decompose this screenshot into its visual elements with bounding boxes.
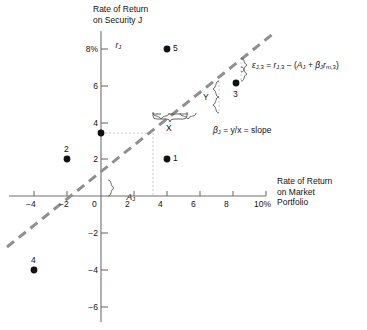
x-tick-marks xyxy=(34,191,266,196)
point-1 xyxy=(164,156,171,163)
regression-line xyxy=(7,33,274,247)
brace-residual xyxy=(241,58,247,81)
resid-rm-sub: m,3 xyxy=(326,64,336,70)
resid-eq-sign: = xyxy=(264,60,274,70)
point-label-5: 5 xyxy=(173,43,178,53)
y-axis-title: Rate of Return on Security J xyxy=(93,4,148,25)
x-tick-label-6: 6 xyxy=(191,199,209,209)
y-tick-label-minus6: −6 xyxy=(74,302,98,312)
y-tick-label-8: 8% xyxy=(78,44,98,54)
resid-plus: + xyxy=(306,60,316,70)
x-tick-label-4: 4 xyxy=(158,199,176,209)
x-tick-label-0: 0 xyxy=(92,199,110,209)
brace-label-alpha: AJ xyxy=(117,182,135,214)
point-label-1: 1 xyxy=(173,153,178,163)
axes xyxy=(9,31,266,322)
x-axis-title-line1: Rate of Return xyxy=(277,176,332,187)
y-tick-label-minus2: −2 xyxy=(74,228,98,238)
x-tick-label-10: 10% xyxy=(254,199,278,209)
data-points xyxy=(31,46,240,274)
y-tick-label-4: 4 xyxy=(78,118,98,128)
x-axis-title-line3: Portfolio xyxy=(277,197,332,208)
x-tick-label-8: 8 xyxy=(224,199,242,209)
x-tick-label-minus4: −4 xyxy=(26,199,44,209)
y-axis-title-line2: on Security J xyxy=(93,15,148,26)
y-tick-marks xyxy=(101,49,108,307)
point-label-2: 2 xyxy=(64,144,69,154)
x-axis-title: Rate of Return on Market Portfolio xyxy=(277,176,332,208)
slope-equation: βJ = y/x = slope xyxy=(213,125,271,135)
point-2 xyxy=(64,156,71,163)
brace-label-rise-y: Y xyxy=(203,92,209,102)
point-5 xyxy=(164,46,171,53)
brace-alpha xyxy=(108,180,114,196)
y-tick-label-6: 6 xyxy=(78,81,98,91)
y-axis-symbol: rJ xyxy=(106,30,121,62)
residual-equation: εJ,3 = rJ,3 − (AJ + βJrm,3) xyxy=(252,60,339,70)
point-3 xyxy=(233,80,240,87)
resid-close: ) xyxy=(336,60,339,70)
brace-label-run-x: X xyxy=(166,123,172,133)
y-axis-symbol-sub: J xyxy=(118,44,121,50)
point-label-4: 4 xyxy=(31,255,36,265)
y-tick-label-2: 2 xyxy=(78,154,98,164)
brace-alpha-sub: J xyxy=(132,196,135,202)
point-4 xyxy=(31,267,38,274)
y-axis-title-line1: Rate of Return xyxy=(93,4,148,15)
point-label-3: 3 xyxy=(233,89,238,99)
resid-minus: − ( xyxy=(284,60,297,70)
x-tick-label-minus2: −2 xyxy=(59,199,77,209)
x-axis-title-line2: on Market xyxy=(277,187,332,198)
chart-canvas xyxy=(0,0,367,330)
y-tick-label-minus4: −4 xyxy=(74,265,98,275)
brace-rise-y xyxy=(213,81,219,113)
slope-equation-rest: = y/x = slope xyxy=(221,125,272,135)
figure-regression-scatter: Rate of Return on Security J rJ Rate of … xyxy=(0,0,367,330)
brace-run-x xyxy=(153,113,196,119)
point-intercept xyxy=(98,130,105,137)
resid-eps-sub: J,3 xyxy=(256,64,264,70)
